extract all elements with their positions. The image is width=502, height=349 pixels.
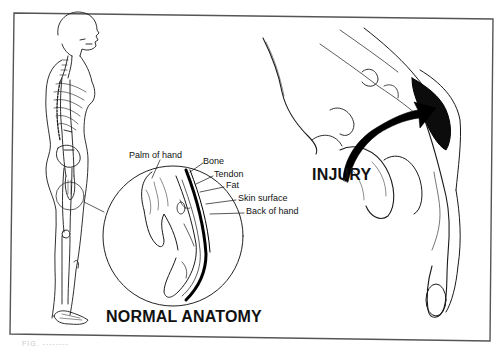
anatomy-illustration: Palm of hand Bone Tendon Fat Skin surfac…	[0, 0, 502, 349]
figure-caption: FIG. --------	[22, 340, 69, 347]
callout-fat: Fat	[226, 180, 239, 190]
normal-hand-detail-icon	[103, 160, 244, 306]
callout-back-of-hand: Back of hand	[246, 206, 299, 216]
callout-tendon: Tendon	[214, 169, 244, 179]
skeleton-figure-icon	[46, 12, 104, 324]
normal-anatomy-title: NORMAL ANATOMY	[106, 309, 262, 325]
injury-title: INJURY	[312, 167, 371, 183]
illustration-canvas	[0, 0, 502, 349]
figure-frame	[10, 13, 493, 341]
callout-palm-of-hand: Palm of hand	[129, 150, 182, 160]
callout-skin-surface: Skin surface	[238, 193, 288, 203]
callout-bone: Bone	[203, 156, 224, 166]
